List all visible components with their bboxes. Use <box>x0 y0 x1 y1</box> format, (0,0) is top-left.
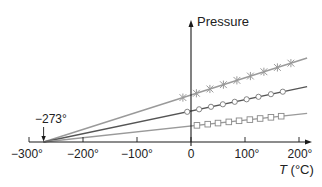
square-marker-icon <box>215 120 221 126</box>
square-marker-icon <box>205 121 211 127</box>
circle-marker-icon <box>185 109 190 114</box>
x-axis-label: T (°C) <box>279 163 314 176</box>
series-2 <box>44 87 308 142</box>
square-marker-icon <box>268 115 274 121</box>
circle-marker-icon <box>232 99 237 104</box>
tick-label-100: 100° <box>235 148 260 160</box>
square-marker-icon <box>278 113 284 119</box>
circle-marker-icon <box>208 104 213 109</box>
circle-marker-icon <box>280 89 285 94</box>
asterisk-marker-icon <box>288 59 295 67</box>
asterisk-marker-icon <box>193 89 200 97</box>
tick-label-neg200: −200° <box>67 148 99 160</box>
y-axis-arrow-icon <box>189 20 194 27</box>
tick-label-neg300: −300° <box>11 148 43 160</box>
circle-marker-icon <box>268 92 273 97</box>
series-line <box>44 58 308 142</box>
axes <box>29 20 312 146</box>
circle-marker-icon <box>244 97 249 102</box>
series-layer <box>44 58 308 142</box>
y-axis-label: Pressure <box>197 15 249 28</box>
annotation-arrow-icon <box>41 136 45 142</box>
tick-label-200: 200° <box>288 148 313 160</box>
asterisk-marker-icon <box>274 63 281 71</box>
asterisk-marker-icon <box>247 72 254 80</box>
circle-marker-icon <box>256 94 261 99</box>
asterisk-marker-icon <box>180 94 187 102</box>
asterisk-marker-icon <box>207 85 214 93</box>
circle-marker-icon <box>220 102 225 107</box>
tick-label-neg100: −100° <box>121 148 153 160</box>
asterisk-marker-icon <box>261 68 268 76</box>
asterisk-marker-icon <box>234 76 241 84</box>
asterisk-marker-icon <box>220 81 227 89</box>
square-marker-icon <box>247 117 253 123</box>
x-axis-label-T: T <box>279 162 287 177</box>
square-marker-icon <box>236 118 242 124</box>
square-marker-icon <box>194 123 200 129</box>
series-line <box>44 87 308 142</box>
tick-label-0: 0 <box>188 148 195 160</box>
pressure-temperature-chart <box>0 0 322 187</box>
square-marker-icon <box>226 119 232 125</box>
x-axis-arrow-icon <box>305 140 312 145</box>
square-marker-icon <box>257 116 263 122</box>
annotation-label: −273° <box>35 113 67 125</box>
series-1 <box>44 58 308 142</box>
x-axis-label-unit: (°C) <box>287 162 314 177</box>
circle-marker-icon <box>197 107 202 112</box>
